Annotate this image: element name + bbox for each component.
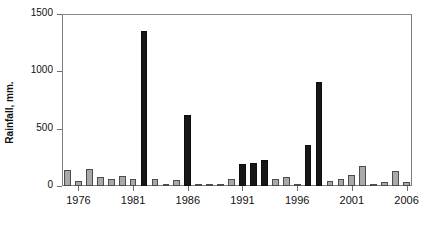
x-axis-tick-mark: [188, 186, 189, 191]
x-axis-tick-label: 1986: [176, 194, 200, 206]
x-axis-tick-label: 1981: [121, 194, 145, 206]
bar: [119, 176, 126, 186]
bar: [305, 145, 312, 186]
y-axis-tick-label: 500: [36, 122, 53, 133]
bar: [338, 179, 345, 186]
bar: [370, 184, 377, 186]
x-axis-tick-label: 2001: [340, 194, 364, 206]
x-axis-tick-label: 1976: [66, 194, 90, 206]
y-axis-tick-mark: [57, 186, 62, 187]
y-axis-title: Rainfall, mm.: [0, 0, 18, 225]
bar: [348, 175, 355, 186]
bar: [272, 179, 279, 186]
bar: [228, 179, 235, 186]
x-axis-tick-mark: [78, 186, 79, 191]
x-axis-tick-mark: [133, 186, 134, 191]
bar: [152, 179, 159, 186]
bar: [141, 31, 148, 186]
bar: [64, 170, 71, 186]
y-axis-tick-label: 1500: [31, 7, 53, 18]
x-axis-tick-mark: [407, 186, 408, 191]
bar: [250, 163, 257, 186]
bar: [206, 184, 213, 186]
x-axis-tick-label: 2006: [394, 194, 418, 206]
x-axis-tick-label: 1996: [285, 194, 309, 206]
bar: [130, 179, 137, 186]
rainfall-bar-chart: Rainfall, mm. 050010001500 1976198119861…: [0, 0, 426, 225]
x-axis-tick-label: 1991: [230, 194, 254, 206]
bar: [283, 177, 290, 186]
bar: [239, 164, 246, 186]
x-axis-tick-mark: [297, 186, 298, 191]
bar: [261, 160, 268, 186]
bar: [359, 166, 366, 186]
x-axis-tick-mark: [242, 186, 243, 191]
x-axis-tick-mark: [352, 186, 353, 191]
bar: [184, 115, 191, 186]
bar: [173, 180, 180, 186]
y-axis-tick-label: 1000: [31, 64, 53, 75]
bar: [217, 184, 224, 186]
y-axis-tick-label: 0: [47, 179, 53, 190]
bar: [86, 169, 93, 186]
bar: [108, 179, 115, 186]
bar: [163, 184, 170, 186]
bar: [392, 171, 399, 186]
bar: [195, 184, 202, 186]
bar-series: [62, 14, 412, 186]
bar: [381, 182, 388, 186]
bar: [316, 82, 323, 186]
bar: [97, 177, 104, 186]
bar: [327, 181, 334, 186]
